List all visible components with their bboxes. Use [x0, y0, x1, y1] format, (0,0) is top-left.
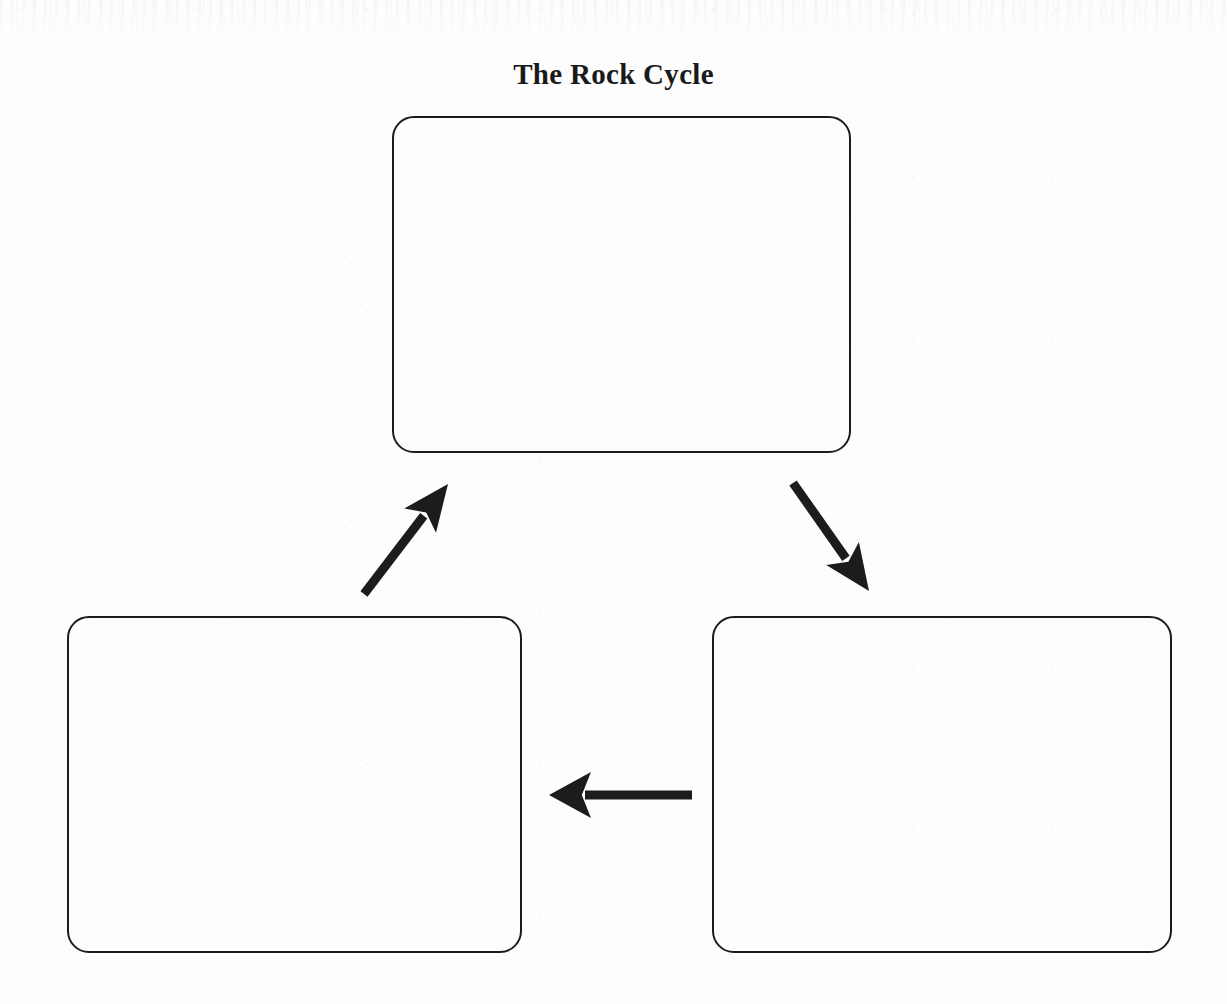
worksheet-page: The Rock Cycle [0, 0, 1227, 1004]
rock-cycle-box-bottom-right[interactable] [712, 616, 1172, 953]
rock-cycle-box-bottom-right-label [714, 618, 1170, 951]
arrow-bottom-left-to-top [364, 484, 448, 594]
arrow-head [549, 772, 591, 818]
scan-noise-band [0, 0, 1227, 40]
arrow-top-to-bottom-right [793, 483, 869, 591]
arrow-shaft [364, 516, 424, 594]
arrow-bottom-right-to-bottom-left [549, 772, 692, 818]
rock-cycle-box-top[interactable] [392, 116, 851, 453]
arrow-head [826, 542, 869, 591]
rock-cycle-box-bottom-left[interactable] [67, 616, 522, 953]
arrow-head [404, 484, 448, 533]
rock-cycle-box-bottom-left-label [69, 618, 520, 951]
arrow-shaft [793, 483, 846, 558]
page-title: The Rock Cycle [0, 58, 1227, 91]
rock-cycle-box-top-label [394, 118, 849, 451]
